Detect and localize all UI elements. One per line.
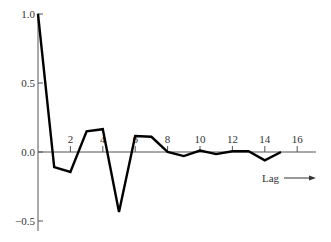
y-tick-label: 0.0 <box>21 146 35 158</box>
x-tick-label: 10 <box>195 133 207 145</box>
y-axis-ticks: 1.00.50.0−0.5 <box>15 8 43 227</box>
y-tick-label: −0.5 <box>15 215 35 227</box>
x-axis-label: Lag <box>262 172 280 184</box>
lag-arrow-icon <box>284 176 316 181</box>
x-tick-label: 14 <box>259 133 271 145</box>
x-tick-label: 12 <box>227 133 238 145</box>
axes <box>38 13 316 231</box>
acf-chart: 1.00.50.0−0.5 246810121416 Lag <box>0 0 331 242</box>
y-tick-label: 1.0 <box>21 8 35 20</box>
x-tick-label: 8 <box>165 133 171 145</box>
y-tick-label: 0.5 <box>21 77 35 89</box>
autocorrelation-line <box>38 14 281 212</box>
x-tick-label: 2 <box>68 133 74 145</box>
x-tick-label: 16 <box>292 133 304 145</box>
